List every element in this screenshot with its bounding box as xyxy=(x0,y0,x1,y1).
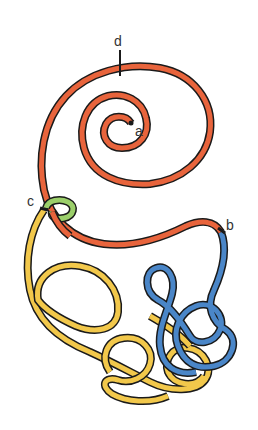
label-b: b xyxy=(226,217,234,233)
junction-c-marker xyxy=(40,208,48,210)
label-a: a xyxy=(135,123,143,139)
label-c: c xyxy=(27,193,34,209)
endpoint-a-marker xyxy=(129,121,134,126)
label-d: d xyxy=(114,33,122,49)
green-ring xyxy=(46,200,73,236)
strand-diagram: d a c b xyxy=(0,0,258,430)
